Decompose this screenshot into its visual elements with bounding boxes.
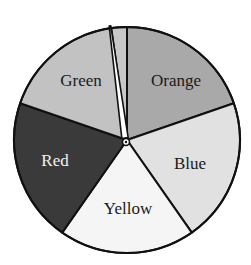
slice-label-orange: Orange xyxy=(151,71,201,90)
slice-label-yellow: Yellow xyxy=(104,199,153,218)
slice-label-green: Green xyxy=(60,71,102,90)
needle-pivot-icon xyxy=(125,141,127,143)
slice-label-blue: Blue xyxy=(174,154,206,173)
slice-label-red: Red xyxy=(41,151,69,170)
pie-chart: OrangeBlueYellowRedGreen xyxy=(0,0,251,265)
